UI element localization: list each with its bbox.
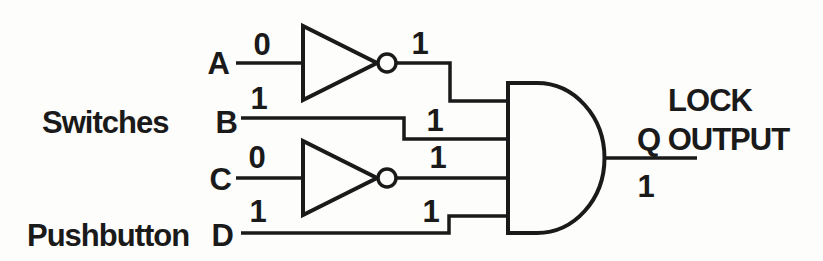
not-gate-a-bubble <box>378 54 396 72</box>
output-value: 1 <box>637 169 654 204</box>
input-a-label: A <box>208 46 230 81</box>
input-b-label: B <box>216 105 238 140</box>
pushbutton-group-label: Pushbutton <box>27 218 189 253</box>
input-c-inverted-value: 1 <box>429 140 446 175</box>
input-b-gate-value: 1 <box>426 103 443 138</box>
and-gate <box>508 83 604 233</box>
input-a-value: 0 <box>253 27 270 62</box>
input-b-value: 1 <box>250 81 267 116</box>
circuit-diagram: A 0 1 Switches B 1 1 C 0 1 Pushbutton D … <box>0 0 823 261</box>
input-d-gate-value: 1 <box>422 194 439 229</box>
not-gate-c-bubble <box>378 169 396 187</box>
switches-group-label: Switches <box>42 105 168 140</box>
output-label-q-output: Q OUTPUT <box>637 122 790 157</box>
wire-a-to-and-gate <box>396 63 509 101</box>
input-d-value: 1 <box>249 194 266 229</box>
wire-d-to-and-gate <box>241 216 509 233</box>
input-c-label: C <box>210 162 232 197</box>
not-gate-a-triangle <box>303 26 377 100</box>
input-a-inverted-value: 1 <box>411 26 428 61</box>
not-gate-c-triangle <box>303 141 377 215</box>
wire-b-to-and-gate <box>241 118 509 139</box>
output-label-lock: LOCK <box>668 83 753 118</box>
input-d-label: D <box>212 218 234 253</box>
input-c-value: 0 <box>248 140 265 175</box>
